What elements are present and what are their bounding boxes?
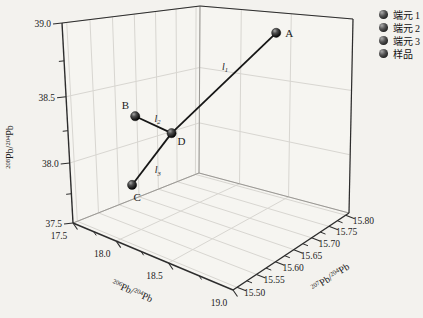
legend-item-endmember-1: 端元 1 [379,9,420,20]
z-axis-tick [61,163,70,164]
y-axis-minor-tick [247,281,252,283]
point-label-A: A [285,27,293,39]
point-label-C: C [133,191,140,203]
y-axis-minor-tick [285,256,290,258]
y-axis-tick-label: 15.65 [301,251,323,261]
x-axis-label: 206Pb/204Pb [110,277,154,304]
y-axis-label: 207Pb/204Pb [309,261,351,294]
z-axis-minor-tick [63,131,68,132]
z-axis-minor-tick [59,61,64,62]
z-axis-tick-label: 38.0 [42,159,59,169]
z-axis-minor-tick [66,194,71,195]
z-axis-tick [53,23,62,24]
point-label-B: B [122,99,129,111]
y-axis-tick-label: 15.55 [263,275,285,285]
x-axis-tick-label: 18.0 [94,249,111,259]
plot-canvas: 17.518.018.519.015.5015.5515.6015.6515.7… [0,0,423,318]
z-axis-tick [57,97,66,98]
y-axis-tick-label: 15.60 [282,263,304,273]
y-axis-tick-label: 15.80 [353,216,375,226]
z-axis-tick [64,223,73,224]
legend-label: 样品 [393,46,413,61]
data-point-A [272,28,281,37]
x-axis-tick-label: 17.5 [51,231,68,241]
data-point-D [167,129,176,138]
y-axis-tick-label: 15.50 [244,288,266,298]
y-axis-minor-tick [337,221,342,223]
grid-line-y [195,6,196,174]
y-axis-tick-label: 15.75 [336,227,358,237]
data-point-C [127,180,136,189]
plot-generated-geometry: 17.518.018.519.015.5015.5515.6015.6515.7… [34,6,374,308]
x-axis-tick-label: 18.5 [146,271,163,281]
legend: 端元 1 端元 2 端元 3 样品 [379,9,420,59]
y-axis-tick-label: 15.70 [319,239,341,249]
sphere-marker-icon [379,23,388,32]
point-label-D: D [178,135,186,147]
x-axis-tick-label: 19.0 [211,298,228,308]
y-axis-minor-tick [303,244,308,246]
sphere-marker-icon [379,49,388,58]
z-axis-tick-label: 37.5 [45,219,62,229]
x-axis-tick [233,290,238,297]
legend-item-endmember-3: 端元 3 [379,35,420,46]
y-axis-minor-tick [320,232,325,234]
z-axis-label: 208Pb/204Pb [4,125,15,168]
z-axis-tick-label: 38.5 [38,93,55,103]
data-point-B [131,112,140,121]
figure-3d-pb-isotope-plot: 17.518.018.519.015.5015.5515.6015.6515.7… [0,0,423,318]
sphere-marker-icon [379,10,388,19]
sphere-marker-icon [379,36,388,45]
y-axis-minor-tick [266,268,271,270]
legend-item-sample: 样品 [379,48,420,59]
legend-item-endmember-2: 端元 2 [379,22,420,33]
z-axis-tick-label: 39.0 [34,19,51,29]
